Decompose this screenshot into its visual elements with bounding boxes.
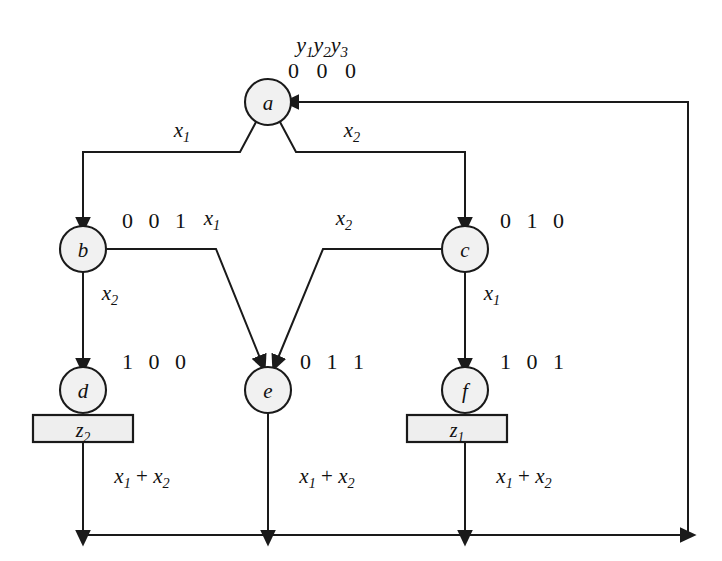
state-label-e: e: [263, 379, 272, 403]
edge-a-to-c: [280, 122, 465, 219]
edge-label-f-to-a: x1 + x2: [495, 464, 551, 491]
edge-label-e-to-a: x1 + x2: [298, 464, 354, 491]
edge-label-b-to-d: x2: [101, 281, 118, 308]
output-label-z1-var: z: [449, 419, 458, 441]
edge-label-b-to-e-sub: 1: [213, 217, 220, 233]
edge-label-f-to-a-sub2: 2: [545, 475, 552, 491]
state-var-y3: y: [329, 32, 341, 57]
state-code-e: 0 1 1: [300, 349, 369, 374]
state-code-d: 1 0 0: [122, 349, 191, 374]
edge-label-f-to-a-sub1: 1: [506, 475, 513, 491]
edge-label-a-to-c: x2: [343, 118, 360, 145]
state-label-c: c: [460, 238, 470, 262]
state-var-y1: y: [294, 32, 306, 57]
edge-label-e-to-a-sub1: 1: [309, 475, 316, 491]
output-label-z2-var: z: [75, 419, 84, 441]
edge-label-d-to-a: x1 + x2: [113, 464, 169, 491]
edge-label-b-to-d-sub: 2: [111, 292, 118, 308]
state-diagram-canvas: a b c d e f z2 z1 y1y2y3 0 0 0 0 0 1 0 1…: [0, 0, 722, 561]
state-label-a: a: [263, 91, 274, 115]
edge-label-d-to-a-op: +: [131, 464, 153, 488]
edge-label-a-to-c-sub: 2: [353, 129, 360, 145]
edge-c-to-e: [278, 249, 442, 358]
edge-b-to-e: [106, 249, 260, 358]
edge-label-c-to-e-sub: 2: [345, 217, 352, 233]
edge-label-a-to-b-sub: 1: [183, 129, 190, 145]
state-code-b: 0 0 1: [122, 208, 191, 233]
state-label-b: b: [78, 238, 89, 262]
edge-feedback-riser: [297, 102, 688, 535]
state-diagram-figure: a b c d e f z2 z1 y1y2y3 0 0 0 0 0 1 0 1…: [0, 0, 722, 561]
edge-label-d-to-a-sub1: 1: [124, 475, 131, 491]
edge-label-a-to-b: x1: [173, 118, 190, 145]
edge-label-e-to-a-sub2: 2: [348, 475, 355, 491]
state-code-f: 1 0 1: [500, 349, 569, 374]
edge-label-b-to-e: x1: [203, 206, 220, 233]
edge-label-c-to-f-sub: 1: [493, 292, 500, 308]
output-label-z2-sub: 2: [84, 430, 91, 445]
state-code-a: 0 0 0: [288, 58, 362, 83]
edge-label-d-to-a-sub2: 2: [163, 475, 170, 491]
edge-label-c-to-f: x1: [483, 281, 500, 308]
state-variable-header: y1y2y3: [294, 32, 348, 60]
state-label-d: d: [78, 379, 89, 403]
edge-label-e-to-a-op: +: [316, 464, 338, 488]
state-code-c: 0 1 0: [500, 208, 569, 233]
state-var-y2: y: [311, 32, 323, 57]
output-label-z1-sub: 1: [458, 430, 465, 445]
edge-label-f-to-a-op: +: [513, 464, 535, 488]
edge-a-to-b: [83, 122, 256, 219]
edge-label-c-to-e: x2: [335, 206, 352, 233]
